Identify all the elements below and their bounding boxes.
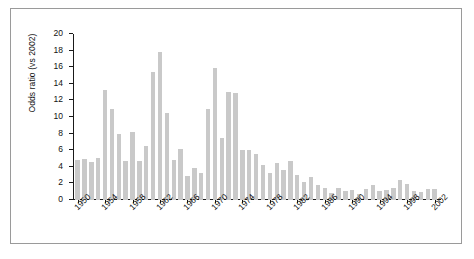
bar-1976: [254, 154, 258, 200]
plot-area: 02468101214161820: [73, 34, 441, 200]
bar-1961: [151, 72, 155, 200]
y-tick-20: 20: [69, 33, 73, 34]
y-tick-12: 12: [69, 99, 73, 100]
bar-1981: [288, 161, 292, 200]
bar-1957: [123, 161, 127, 200]
bar-1963: [165, 113, 169, 200]
y-tick-14: 14: [69, 83, 73, 84]
y-tick-label: 20: [54, 28, 63, 38]
bar-1955: [110, 109, 114, 200]
bar-1954: [103, 90, 107, 200]
bar-1964: [172, 160, 176, 200]
bar-1952: [89, 162, 93, 200]
y-tick-label: 2: [58, 177, 63, 187]
bar-1973: [233, 93, 237, 200]
y-tick-label: 12: [54, 94, 63, 104]
chart-figure: Odds ratio (vs 2002) 02468101214161820 1…: [0, 0, 474, 259]
bar-1993: [371, 185, 375, 200]
bar-1953: [96, 158, 100, 200]
bar-1972: [226, 92, 230, 200]
bar-1950: [75, 160, 79, 200]
bar-1970: [213, 68, 217, 200]
y-axis-label: Odds ratio (vs 2002): [27, 13, 43, 133]
y-tick-label: 14: [54, 78, 63, 88]
bar-1974: [240, 150, 244, 200]
bar-1965: [178, 149, 182, 200]
bar-1997: [398, 180, 402, 200]
bar-1977: [261, 165, 265, 200]
y-tick-18: 18: [69, 50, 73, 51]
y-tick-label: 18: [54, 45, 63, 55]
bar-1969: [206, 109, 210, 200]
y-tick-4: 4: [69, 166, 73, 167]
y-tick-8: 8: [69, 133, 73, 134]
bar-2001: [426, 189, 430, 200]
y-tick-6: 6: [69, 149, 73, 150]
y-tick-label: 8: [58, 128, 63, 138]
bar-1989: [343, 191, 347, 200]
y-tick-label: 4: [58, 161, 63, 171]
y-tick-label: 0: [58, 194, 63, 204]
bar-1962: [158, 52, 162, 200]
bar-1958: [130, 132, 134, 200]
bar-1985: [316, 185, 320, 200]
bar-1960: [144, 146, 148, 200]
bar-1956: [117, 134, 121, 200]
y-tick-label: 6: [58, 144, 63, 154]
y-tick-label: 16: [54, 61, 63, 71]
y-tick-label: 10: [54, 111, 63, 121]
chart-frame: Odds ratio (vs 2002) 02468101214161820 1…: [10, 8, 462, 244]
x-axis-ticks: 1950195419581962196619701974197819821986…: [73, 200, 441, 250]
y-tick-2: 2: [69, 182, 73, 183]
y-tick-16: 16: [69, 66, 73, 67]
y-tick-10: 10: [69, 116, 73, 117]
